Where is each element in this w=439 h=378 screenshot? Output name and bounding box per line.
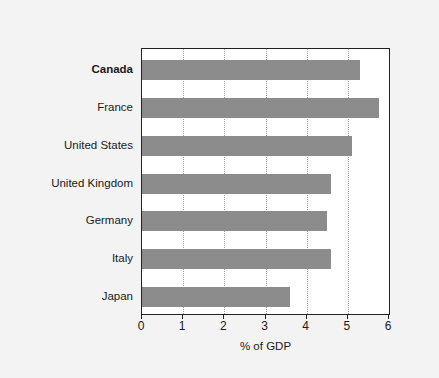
bar [142, 174, 331, 194]
x-tick-label: 6 [373, 319, 403, 333]
plot-area [141, 48, 390, 315]
bar-row [142, 211, 389, 231]
bar-row [142, 136, 389, 156]
bar [142, 136, 352, 156]
x-tick-label: 1 [167, 319, 197, 333]
bar-row [142, 287, 389, 307]
bar [142, 98, 379, 118]
x-tick-label: 3 [250, 319, 280, 333]
bar [142, 60, 360, 80]
x-tick-label: 4 [291, 319, 321, 333]
x-axis: 0123456 [141, 314, 390, 336]
bar [142, 249, 331, 269]
x-axis-title: % of GDP [141, 340, 390, 352]
bar [142, 211, 327, 231]
y-axis-category-labels: CanadaFranceUnited StatesUnited KingdomG… [0, 48, 133, 313]
x-tick-label: 5 [332, 319, 362, 333]
chart-figure: CanadaFranceUnited StatesUnited KingdomG… [0, 0, 439, 378]
category-label: Canada [3, 59, 133, 79]
category-label: Germany [3, 210, 133, 230]
category-label: France [3, 97, 133, 117]
category-label: United States [3, 135, 133, 155]
category-label: United Kingdom [3, 173, 133, 193]
bar [142, 287, 290, 307]
category-label: Japan [3, 286, 133, 306]
x-tick-label: 2 [208, 319, 238, 333]
bar-row [142, 60, 389, 80]
category-label: Italy [3, 248, 133, 268]
bar-row [142, 249, 389, 269]
bar-row [142, 98, 389, 118]
x-tick-label: 0 [126, 319, 156, 333]
bar-row [142, 174, 389, 194]
